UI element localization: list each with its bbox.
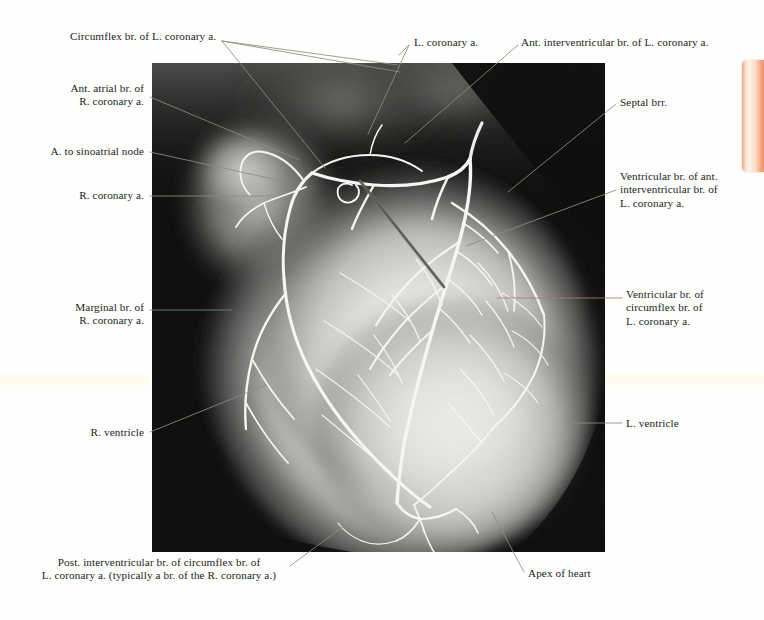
- coronary-angiogram-image: [152, 63, 605, 552]
- label-right-ventricle: R. ventricle: [62, 426, 144, 439]
- page-edge-tab[interactable]: [742, 60, 764, 172]
- label-right-coronary-artery: R. coronary a.: [46, 189, 144, 202]
- label-ventricular-branch-of-ant-interventricular: Ventricular br. of ant. interventricular…: [620, 170, 764, 210]
- label-left-coronary-artery: L. coronary a.: [414, 36, 514, 49]
- label-post-interventricular-branch: Post. interventricular br. of circumflex…: [28, 556, 290, 583]
- leader-l-coronary-short: [399, 45, 409, 55]
- label-ventricular-branch-of-circumflex: Ventricular br. of circumflex br. of L. …: [626, 288, 761, 328]
- label-marginal-branch: Marginal br. of R. coronary a.: [30, 301, 144, 328]
- label-apex-of-heart: Apex of heart: [528, 567, 628, 580]
- label-artery-to-sinoatrial-node: A. to sinoatrial node: [18, 145, 144, 158]
- page-scan-tint-right: [606, 372, 764, 386]
- label-ant-atrial-branch: Ant. atrial br. of R. coronary a.: [20, 82, 144, 109]
- page-scan-tint-left: [0, 370, 150, 392]
- atlas-plate-page: Circumflex br. of L. coronary a. L. coro…: [0, 0, 764, 620]
- label-septal-branches: Septal brr.: [620, 96, 710, 109]
- leader-circumflex-a: [222, 41, 398, 65]
- label-ant-interventricular-branch: Ant. interventricular br. of L. coronary…: [521, 36, 761, 49]
- label-left-ventricle: L. ventricle: [626, 417, 716, 430]
- label-circumflex-branch: Circumflex br. of L. coronary a.: [70, 30, 280, 43]
